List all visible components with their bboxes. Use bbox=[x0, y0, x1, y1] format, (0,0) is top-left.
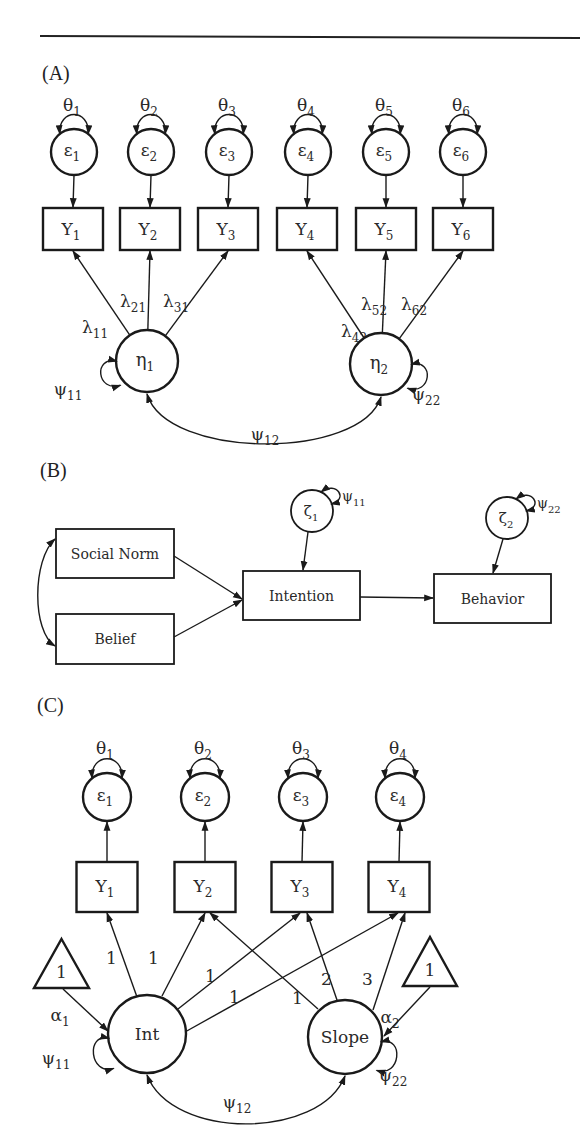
slope-loading-label: 3 bbox=[362, 969, 373, 989]
panel-c: (C) ε1θ1ε2θ2ε3θ3ε4θ4Y1Y2Y3Y41111123Intψ1… bbox=[34, 694, 457, 1124]
error-to-indicator-arrow bbox=[307, 175, 308, 207]
theta-label: θ4 bbox=[297, 95, 315, 119]
theta-label: θ3 bbox=[218, 95, 236, 119]
indicator-1: Y1 bbox=[43, 208, 103, 250]
panel-label-a: (A) bbox=[42, 62, 70, 85]
error-term-3: ε3θ3 bbox=[206, 95, 252, 207]
variable-label: Belief bbox=[95, 631, 138, 647]
disturbance-circle bbox=[291, 490, 333, 532]
loading-label: λ62 bbox=[401, 294, 427, 318]
psi-label: ψ22 bbox=[379, 1065, 408, 1089]
loading-label: λ21 bbox=[120, 291, 146, 315]
intercept-loading-label: 1 bbox=[229, 987, 240, 1007]
indicator-to-error-arrow bbox=[399, 822, 400, 862]
factor-label: Int bbox=[135, 1024, 160, 1044]
error-to-indicator-arrow bbox=[73, 175, 74, 207]
theta-label: θ5 bbox=[375, 95, 393, 119]
intention-box: Intention bbox=[243, 571, 360, 620]
disturbance-2: ζ2ψ22 bbox=[486, 495, 561, 573]
loading-arrow bbox=[382, 251, 386, 333]
indicator-4: Y4 bbox=[277, 208, 337, 250]
indicator-to-error-arrow bbox=[302, 822, 303, 862]
psi-label: ψ11 bbox=[42, 1048, 71, 1072]
variable-label: Behavior bbox=[461, 591, 525, 607]
factor-label: Slope bbox=[321, 1027, 369, 1047]
alpha-label: α2 bbox=[380, 1007, 399, 1031]
behavior-box: Behavior bbox=[434, 574, 551, 623]
header-rule bbox=[40, 36, 580, 38]
belief-box: Belief bbox=[56, 614, 174, 664]
indicator-1: Y1 bbox=[77, 822, 138, 912]
loading-label: λ31 bbox=[163, 291, 189, 315]
disturbance-circle bbox=[486, 497, 528, 539]
loading-arrow bbox=[165, 251, 228, 336]
exogenous-covariance-arrow bbox=[38, 539, 55, 646]
error-term-3: ε3θ3 bbox=[279, 738, 327, 821]
error-term-5: ε5θ5 bbox=[363, 95, 409, 207]
factor-covariance-arrow bbox=[147, 1075, 345, 1124]
constant-triangle-1: 1 bbox=[34, 939, 89, 988]
indicator-5: Y5 bbox=[356, 208, 416, 250]
factor-1: η1ψ11 bbox=[54, 330, 178, 403]
error-to-indicator-arrow bbox=[150, 175, 151, 207]
path-arrow bbox=[174, 600, 242, 637]
loading-arrow bbox=[307, 251, 364, 338]
disturbance-arrow bbox=[303, 532, 308, 570]
loading-label: λ52 bbox=[361, 294, 387, 318]
error-term-1: ε1θ1 bbox=[51, 95, 97, 207]
sem-figure: (A) ε1θ1ε2θ2ε3θ3ε4θ4ε5θ5ε6θ6 Y1Y2Y3Y4Y5Y… bbox=[0, 0, 584, 1143]
factor-2: η2ψ22 bbox=[350, 333, 440, 408]
theta-label: θ2 bbox=[140, 95, 158, 119]
error-term-4: ε4θ4 bbox=[285, 95, 331, 207]
panel-label-b: (B) bbox=[40, 459, 67, 482]
psi-label: ψ22 bbox=[537, 495, 561, 515]
variable-label: Social Norm bbox=[71, 546, 159, 562]
path-arrow bbox=[360, 597, 433, 598]
social-norm-box: Social Norm bbox=[56, 529, 174, 578]
indicator-4: Y4 bbox=[369, 822, 430, 912]
error-term-4: ε4θ4 bbox=[376, 738, 424, 821]
slope-loading-arrow bbox=[373, 913, 405, 1010]
alpha-label: α1 bbox=[50, 1005, 69, 1029]
variable-label: Intention bbox=[269, 588, 334, 604]
panel-label-c: (C) bbox=[37, 694, 64, 717]
covariance-label: ψ12 bbox=[223, 1092, 252, 1116]
psi-label: ψ11 bbox=[54, 379, 83, 403]
indicator-3: Y3 bbox=[272, 822, 333, 912]
indicator-2: Y2 bbox=[175, 822, 236, 912]
constant-triangle-2: 1 bbox=[403, 937, 457, 986]
error-term-1: ε1θ1 bbox=[83, 738, 131, 821]
indicator-3: Y3 bbox=[198, 208, 258, 250]
psi-label: ψ22 bbox=[412, 384, 441, 408]
disturbance-arrow bbox=[493, 539, 503, 573]
psi-label: ψ11 bbox=[342, 488, 366, 508]
indicator-2: Y2 bbox=[120, 208, 180, 250]
intercept-loading-label: 1 bbox=[205, 966, 216, 986]
covariance-label: ψ12 bbox=[251, 424, 280, 448]
panel-a: (A) ε1θ1ε2θ2ε3θ3ε4θ4ε5θ5ε6θ6 Y1Y2Y3Y4Y5Y… bbox=[42, 62, 493, 448]
mean-arrow bbox=[63, 989, 108, 1031]
intercept-loading-arrow bbox=[162, 913, 205, 996]
growth-factor-slope: Slopeψ22α2 bbox=[308, 1000, 407, 1089]
loading-label: λ11 bbox=[82, 317, 108, 341]
intercept-loading-label: 1 bbox=[148, 948, 159, 968]
slope-loading-label: 1 bbox=[292, 988, 303, 1008]
intercept-loading-label: 1 bbox=[106, 948, 117, 968]
panel-b: (B) Social NormBeliefIntentionBehaviorζ1… bbox=[38, 459, 561, 664]
disturbance-1: ζ1ψ11 bbox=[291, 488, 366, 570]
loading-arrow bbox=[148, 251, 150, 330]
theta-label: θ1 bbox=[63, 95, 81, 119]
theta-label: θ6 bbox=[452, 95, 470, 119]
slope-loading-label: 2 bbox=[321, 969, 332, 989]
growth-factor-int: Intψ11α1 bbox=[42, 995, 186, 1073]
constant-label: 1 bbox=[425, 960, 436, 980]
error-to-indicator-arrow bbox=[228, 175, 229, 207]
error-term-2: ε2θ2 bbox=[181, 738, 229, 821]
indicator-6: Y6 bbox=[433, 208, 493, 250]
error-term-2: ε2θ2 bbox=[128, 95, 174, 207]
error-term-6: ε6θ6 bbox=[440, 95, 486, 207]
path-arrow bbox=[174, 556, 242, 599]
constant-label: 1 bbox=[56, 962, 67, 982]
